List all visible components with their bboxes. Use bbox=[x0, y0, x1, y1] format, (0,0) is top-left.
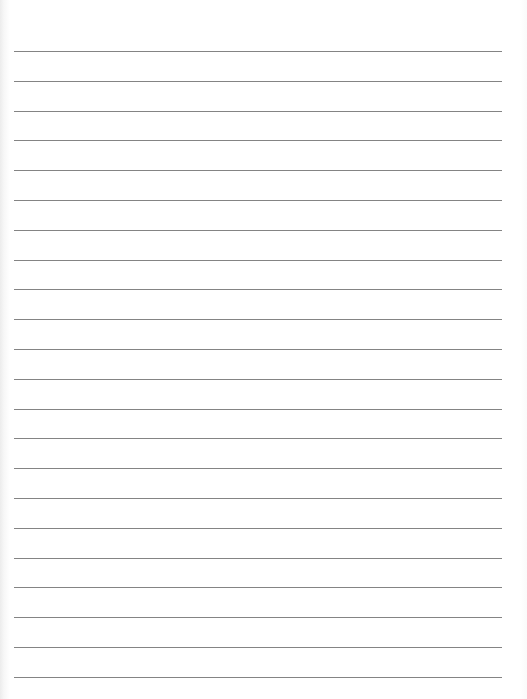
ruled-line bbox=[14, 677, 502, 678]
ruled-line bbox=[14, 170, 502, 171]
ruled-line bbox=[14, 51, 502, 52]
ruled-line bbox=[14, 558, 502, 559]
ruled-line bbox=[14, 319, 502, 320]
ruled-line bbox=[14, 81, 502, 82]
ruled-line bbox=[14, 140, 502, 141]
ruled-line bbox=[14, 468, 502, 469]
lined-paper-page bbox=[0, 0, 527, 699]
ruled-line bbox=[14, 260, 502, 261]
ruled-line bbox=[14, 587, 502, 588]
ruled-line bbox=[14, 617, 502, 618]
ruled-line bbox=[14, 409, 502, 410]
ruled-line bbox=[14, 349, 502, 350]
ruled-line bbox=[14, 230, 502, 231]
ruled-line bbox=[14, 498, 502, 499]
ruled-line bbox=[14, 289, 502, 290]
ruled-line bbox=[14, 379, 502, 380]
ruled-line bbox=[14, 647, 502, 648]
ruled-line bbox=[14, 111, 502, 112]
ruled-line bbox=[14, 200, 502, 201]
ruled-line bbox=[14, 438, 502, 439]
ruled-line bbox=[14, 528, 502, 529]
